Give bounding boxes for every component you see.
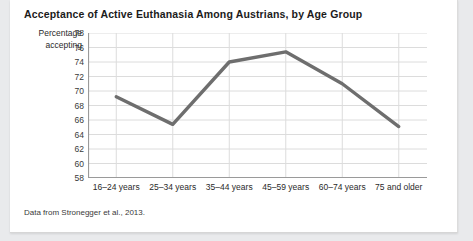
chart-plot-svg — [88, 33, 427, 178]
y-axis-tick-label: 70 — [75, 86, 84, 96]
x-axis-tick-label: 25–34 years — [149, 182, 196, 192]
y-axis-title-line-1: Percentage — [16, 28, 82, 40]
source-note: Data from Stronegger et al., 2013. — [24, 208, 145, 217]
y-axis-title: Percentage accepting — [16, 28, 82, 51]
page-title: Acceptance of Active Euthanasia Among Au… — [24, 8, 362, 20]
y-axis-tick-label: 74 — [75, 57, 84, 67]
y-axis-tick-label: 68 — [75, 101, 84, 111]
y-axis-tick-label: 76 — [75, 43, 84, 53]
y-axis-tick-label: 60 — [75, 159, 84, 169]
data-series-line — [116, 52, 399, 127]
y-axis-tick-label: 78 — [75, 28, 84, 38]
y-axis-title-line-2: accepting — [16, 40, 82, 52]
x-axis-tick-label: 45–59 years — [262, 182, 309, 192]
y-axis-tick-label: 58 — [75, 173, 84, 183]
y-axis-tick-label: 64 — [75, 130, 84, 140]
x-axis-tick-label: 75 and older — [375, 182, 422, 192]
y-axis-tick-label: 72 — [75, 72, 84, 82]
line-chart: 586062646668707274767816–24 years25–34 y… — [88, 33, 427, 178]
y-axis-tick-label: 62 — [75, 144, 84, 154]
x-axis-tick-label: 35–44 years — [206, 182, 253, 192]
y-axis-tick-label: 66 — [75, 115, 84, 125]
x-axis-tick-label: 16–24 years — [93, 182, 140, 192]
figure-card: Acceptance of Active Euthanasia Among Au… — [10, 0, 458, 233]
x-axis-tick-label: 60–74 years — [319, 182, 366, 192]
